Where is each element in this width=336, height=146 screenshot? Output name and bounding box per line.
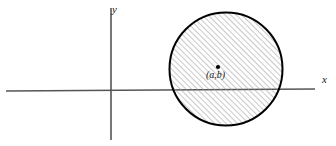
diagram-svg (0, 0, 336, 146)
figure-canvas: y x (a,b) (0, 0, 336, 146)
hatched-circle (170, 13, 283, 126)
x-axis-label: x (322, 74, 327, 85)
circle-center-label: (a,b) (206, 70, 225, 80)
y-axis-label: y (112, 4, 117, 15)
